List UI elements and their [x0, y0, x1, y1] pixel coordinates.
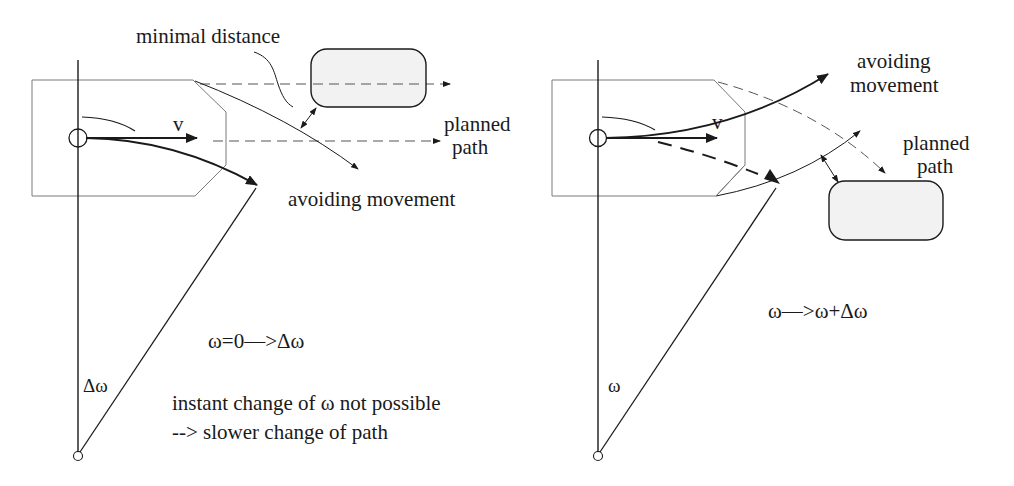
note-line-1: instant change of ω not possible: [172, 391, 441, 415]
actual-path-arrow: [86, 138, 257, 185]
angle-arc: [82, 117, 135, 131]
robot-path-diagram: minimal distance v planned path avoiding…: [0, 0, 1014, 486]
right-panel: v avoiding movement planned path ω ω—>ω+…: [552, 49, 970, 461]
minimal-distance-leader: [254, 52, 293, 107]
left-panel: minimal distance v planned path avoiding…: [32, 24, 511, 461]
note-line-2: --> slower change of path: [172, 420, 388, 444]
avoiding-movement-label-line2: movement: [850, 73, 939, 97]
obstacle: [311, 49, 426, 107]
planned-path-label-line1: planned: [903, 131, 970, 155]
avoiding-movement-label-line1: avoiding: [857, 49, 931, 73]
pivot-point-icon: [594, 452, 603, 461]
turn-radius-line: [600, 188, 776, 452]
equation-label: ω=0—>Δω: [208, 329, 304, 353]
angle-label: ω: [608, 375, 621, 396]
equation-label: ω—>ω+Δω: [768, 299, 868, 323]
obstacle: [829, 181, 943, 240]
planned-path-label-line1: planned: [444, 112, 511, 136]
velocity-label: v: [173, 112, 184, 136]
velocity-label: v: [712, 110, 723, 134]
previous-path-dashed: [658, 142, 758, 174]
minimal-distance-label: minimal distance: [136, 24, 280, 48]
chamfer-marker: [716, 165, 745, 196]
planned-path-label-line2: path: [452, 135, 489, 159]
turn-arrowhead: [764, 169, 780, 184]
minimal-distance-arrow: [301, 108, 316, 128]
planned-path-label-line2: path: [917, 154, 954, 178]
avoiding-movement-label: avoiding movement: [288, 187, 456, 211]
pivot-point-icon: [74, 452, 83, 461]
diagram-canvas: minimal distance v planned path avoiding…: [0, 0, 1014, 486]
angle-label: Δω: [83, 375, 108, 396]
minimal-distance-arrow: [821, 155, 838, 182]
angle-arc: [602, 117, 655, 130]
